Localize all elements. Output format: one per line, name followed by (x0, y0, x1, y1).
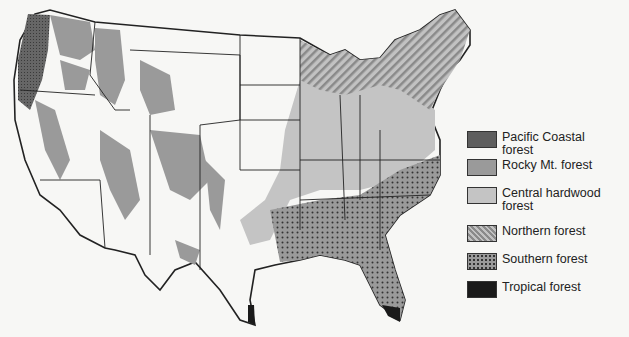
central-hardwood-swatch (467, 187, 497, 204)
legend-label: Central hardwood forest (502, 187, 617, 213)
southern-swatch (467, 253, 497, 270)
legend-label: Pacific Coastal forest (502, 131, 617, 157)
legend-label: Rocky Mt. forest (502, 159, 617, 172)
legend-item-northern: Northern forest (467, 225, 617, 242)
rocky-mt-swatch (467, 159, 497, 176)
legend-label: Northern forest (502, 225, 617, 238)
legend-item-pacific-coastal: Pacific Coastal forest (467, 131, 617, 157)
tropical-forest-texas (248, 305, 255, 325)
pacific-coastal-swatch (467, 131, 497, 148)
tropical-swatch (467, 281, 497, 298)
legend-item-southern: Southern forest (467, 253, 617, 270)
legend-label: Southern forest (502, 253, 617, 266)
legend-label: Tropical forest (502, 281, 617, 294)
legend-item-rocky-mt: Rocky Mt. forest (467, 159, 617, 176)
northern-swatch (467, 225, 497, 242)
legend-item-central-hardwood: Central hardwood forest (467, 187, 617, 213)
legend-item-tropical: Tropical forest (467, 281, 617, 298)
